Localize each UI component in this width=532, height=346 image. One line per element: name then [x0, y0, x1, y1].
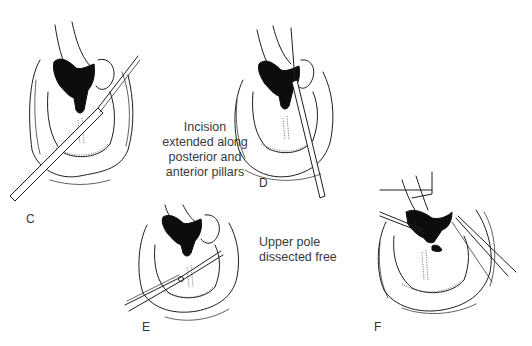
- panel-label-d: D: [259, 176, 268, 190]
- caption-upper-pole-line-1: Upper pole: [259, 235, 369, 250]
- panel-label-c: C: [26, 212, 35, 226]
- tonsil-illustration-f: [372, 172, 532, 322]
- panel-label-e: E: [142, 320, 150, 334]
- tonsil-illustration-e: [125, 205, 255, 330]
- panel-e: E: [125, 205, 255, 330]
- caption-upper-pole-line-2: dissected free: [259, 250, 369, 265]
- panel-d: D: [225, 20, 345, 210]
- tonsil-illustration-d: [225, 20, 345, 210]
- panel-f: F: [372, 172, 532, 322]
- panel-c: C: [10, 20, 150, 200]
- panel-label-f: F: [374, 320, 381, 334]
- caption-upper-pole: Upper pole dissected free: [259, 235, 369, 265]
- tonsil-illustration-c: [10, 20, 150, 200]
